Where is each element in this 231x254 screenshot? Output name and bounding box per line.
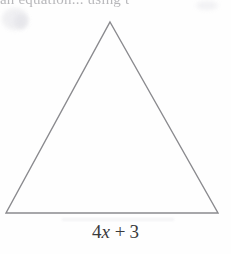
- label-coefficient: 4: [92, 221, 102, 242]
- label-operator: +: [111, 221, 130, 242]
- base-length-label: 4x+3: [0, 221, 231, 243]
- label-variable: x: [101, 221, 110, 242]
- geometry-figure: an equation... using t 4x+3: [0, 0, 231, 254]
- triangle-shape: [0, 0, 231, 254]
- label-constant: 3: [130, 221, 140, 242]
